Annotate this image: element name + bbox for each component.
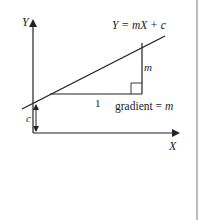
run-label: 1 <box>95 98 101 109</box>
line-equation-label: Y = mX + c <box>112 20 166 32</box>
y-axis-label: Y <box>22 16 29 28</box>
right-angle-marker <box>131 83 142 94</box>
page-edge-divider <box>196 0 198 220</box>
x-axis-label: X <box>169 140 176 152</box>
gradient-prefix: gradient = <box>115 100 165 112</box>
gradient-var: m <box>165 100 173 112</box>
gradient-label: gradient = m <box>115 101 173 113</box>
intercept-label: c <box>26 113 31 124</box>
rise-label: m <box>144 62 152 73</box>
straight-line-diagram: Y X Y = mX + c m 1 gradient = m c <box>0 0 199 220</box>
